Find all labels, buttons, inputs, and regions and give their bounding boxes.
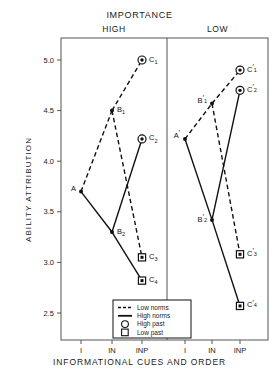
y-tick-label: 3.5	[44, 207, 54, 216]
marker-dot	[210, 102, 214, 106]
data-point-high-C1: C1	[138, 55, 157, 65]
y-tick-label: 3.0	[44, 258, 54, 267]
data-point-label: C1	[149, 55, 157, 65]
legend-label: Low norms	[137, 304, 170, 311]
series-segment-solid	[185, 139, 212, 220]
marker-dot	[79, 190, 83, 194]
x-tick-label: I	[80, 346, 82, 355]
legend-square-icon	[122, 329, 129, 336]
y-tick-label: 4.0	[44, 157, 54, 166]
marker-dot	[110, 230, 114, 234]
marker-circle-inner	[140, 58, 143, 61]
data-point-low-C3: C′3	[236, 247, 256, 258]
data-point-label: C′4	[247, 299, 257, 310]
x-tick-label: INP	[234, 346, 247, 355]
data-point-label: B′2	[198, 213, 207, 224]
marker-dot	[110, 109, 114, 113]
chart-figure: IMPORTANCE HIGH LOW ABILITY ATTRIBUTION …	[0, 0, 279, 388]
data-point-low-B2: B′2	[198, 213, 214, 224]
panel-series-low: A′B′1B′2C′1C′2C′3C′4	[174, 63, 257, 309]
marker-circle-inner	[238, 89, 241, 92]
x-tick-label: I	[184, 346, 186, 355]
data-point-label: B1	[117, 105, 125, 115]
y-tick-label: 5.0	[44, 56, 54, 65]
data-point-high-C4: C4	[138, 275, 157, 285]
legend: Low normsHigh normsHigh pastLow past	[113, 300, 191, 338]
data-point-low-A: A′	[174, 129, 187, 141]
x-tick-label: IN	[108, 346, 116, 355]
legend-label: High norms	[137, 312, 171, 320]
data-point-high-B2: B2	[110, 227, 125, 237]
x-axis-ticks: IININPIININP	[80, 340, 246, 355]
series-segment-dashed	[212, 70, 240, 103]
series-segment-dashed	[112, 60, 142, 111]
marker-circle-inner	[238, 68, 241, 71]
marker-square-inner	[239, 253, 242, 256]
data-point-low-C1: C′1	[236, 63, 257, 74]
legend-label: Low past	[137, 329, 163, 337]
marker-dot	[183, 137, 187, 141]
plot-canvas: 5.04.54.03.53.02.5IININPIININPAB1B2C1C2C…	[0, 0, 279, 388]
data-point-label: B2	[117, 227, 125, 237]
marker-square-inner	[141, 256, 144, 259]
series-segment-solid	[81, 192, 112, 232]
data-point-high-A: A	[71, 184, 83, 194]
data-point-label: C4	[149, 275, 157, 285]
data-point-label: C′3	[247, 247, 257, 258]
data-point-label: C′1	[247, 63, 257, 74]
series-segment-dashed	[185, 104, 212, 139]
x-tick-label: INP	[136, 346, 149, 355]
marker-dot	[210, 218, 214, 222]
marker-square-inner	[141, 279, 144, 282]
legend-label: High past	[137, 320, 165, 328]
y-tick-label: 2.5	[44, 309, 54, 318]
y-axis-ticks: 5.04.54.03.53.02.5	[44, 56, 61, 318]
legend-circle-icon	[122, 321, 129, 328]
data-point-label: A′	[174, 129, 181, 140]
data-point-low-C4: C′4	[236, 299, 256, 310]
x-tick-label: IN	[208, 346, 216, 355]
data-point-low-B1: B′1	[198, 94, 214, 106]
data-point-label: C2	[149, 133, 157, 143]
data-point-label: C′2	[247, 83, 257, 94]
data-point-low-C2: C′2	[236, 83, 257, 94]
data-point-label: C3	[149, 252, 157, 262]
data-point-high-C3: C3	[138, 252, 157, 262]
marker-circle-inner	[140, 137, 143, 140]
series-segment-dashed	[81, 111, 112, 192]
data-point-high-C2: C2	[138, 133, 157, 143]
series-segment-solid	[112, 139, 142, 232]
series-segment-solid	[112, 232, 142, 281]
data-point-label: B′1	[198, 94, 207, 105]
series-segment-solid	[212, 90, 240, 220]
panel-series-high: AB1B2C1C2C3C4	[71, 55, 158, 286]
data-point-label: A	[71, 184, 76, 193]
y-tick-label: 4.5	[44, 106, 54, 115]
marker-square-inner	[239, 304, 242, 307]
legend-item: Low past	[122, 329, 164, 337]
